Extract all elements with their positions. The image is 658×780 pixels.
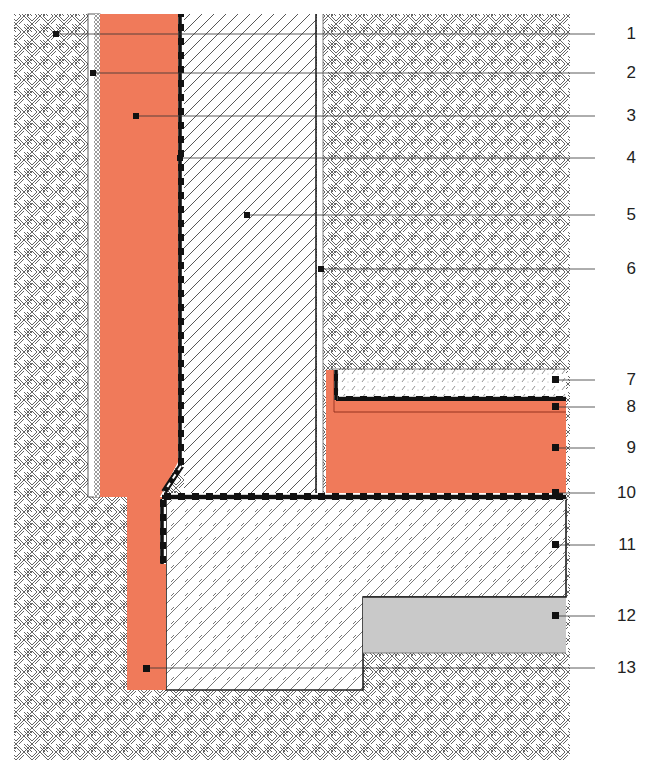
callout-label-10: 10 [596,483,636,503]
callout-label-12: 12 [596,606,636,626]
callout-label-4: 4 [596,148,636,168]
section-drawing [0,0,658,780]
callout-label-6: 6 [596,259,636,279]
interior-plaster [317,14,323,494]
basement-wall [184,14,316,494]
wall-insulation [100,14,178,497]
callout-label-11: 11 [596,535,636,555]
wall-waterproofing [178,14,184,466]
callout-label-5: 5 [596,205,636,225]
screed [336,370,566,396]
callout-label-2: 2 [596,63,636,83]
callout-label-8: 8 [596,397,636,417]
callout-label-1: 1 [596,24,636,44]
floor-waterproofing [162,493,566,500]
callout-label-7: 7 [596,370,636,390]
callout-label-3: 3 [596,106,636,126]
callout-label-13: 13 [596,658,636,678]
callout-label-9: 9 [596,438,636,458]
gravel-layer [363,597,566,653]
